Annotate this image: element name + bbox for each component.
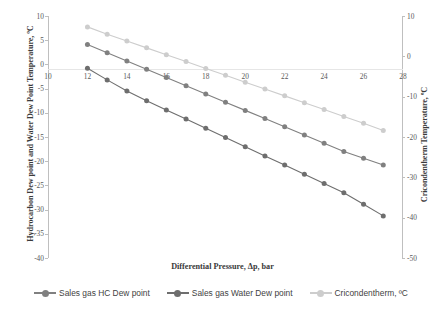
series-marker — [184, 83, 189, 88]
series-marker — [341, 149, 346, 154]
y-axis-left-tick-label: 5 — [20, 36, 44, 45]
y-axis-left-tick-label: -10 — [20, 108, 44, 117]
series-marker — [262, 153, 267, 158]
series-line — [87, 68, 383, 216]
y-axis-left-tick — [45, 258, 48, 259]
series-marker — [302, 100, 307, 105]
legend-marker-icon — [310, 289, 332, 297]
series-marker — [381, 213, 386, 218]
y-axis-left-tick-label: -5 — [20, 84, 44, 93]
series-marker — [322, 107, 327, 112]
series-marker — [184, 117, 189, 122]
y-axis-left-tick-label: -15 — [20, 133, 44, 142]
series-marker — [341, 114, 346, 119]
series-marker — [361, 202, 366, 207]
series-marker — [105, 50, 110, 55]
series-marker — [105, 77, 110, 82]
legend-label: Cricondentherm, ºC — [335, 288, 408, 298]
y-axis-left-tick-label: -30 — [20, 205, 44, 214]
series-marker — [124, 39, 129, 44]
y-axis-left-tick-label: -25 — [20, 181, 44, 190]
series-marker — [144, 45, 149, 50]
series-marker — [302, 172, 307, 177]
series-marker — [262, 87, 267, 92]
series-marker — [203, 66, 208, 71]
series-marker — [282, 93, 287, 98]
y-axis-right-tick-label: -50 — [407, 254, 433, 263]
series-marker — [341, 190, 346, 195]
legend-label: Sales gas HC Dew point — [59, 288, 150, 298]
legend-marker-icon — [167, 289, 189, 297]
series-marker — [105, 32, 110, 37]
y-axis-right-tick-label: 10 — [407, 12, 433, 21]
legend-item[interactable]: Sales gas Water Dew point — [167, 288, 293, 298]
y-axis-right-tick — [402, 258, 405, 259]
series-marker — [184, 59, 189, 64]
series-marker — [85, 24, 90, 29]
series-marker — [144, 98, 149, 103]
legend-item[interactable]: Sales gas HC Dew point — [34, 288, 150, 298]
series-marker — [302, 133, 307, 138]
series-marker — [223, 100, 228, 105]
series-layer — [48, 16, 403, 258]
legend-label: Sales gas Water Dew point — [192, 288, 293, 298]
legend-item[interactable]: Cricondentherm, ºC — [310, 288, 408, 298]
series-marker — [124, 59, 129, 64]
series-marker — [124, 89, 129, 94]
series-marker — [361, 156, 366, 161]
series-marker — [243, 144, 248, 149]
series-marker — [85, 42, 90, 47]
y-axis-right-tick-label: -10 — [407, 92, 433, 101]
y-axis-left-tick-label: -35 — [20, 229, 44, 238]
y-axis-right-tick-label: -40 — [407, 213, 433, 222]
series-marker — [243, 108, 248, 113]
series-marker — [381, 163, 386, 168]
y-axis-left-tick-label: -20 — [20, 157, 44, 166]
series-marker — [85, 66, 90, 71]
x-axis-title: Differential Pressure, Δp, bar — [110, 262, 335, 271]
series-marker — [203, 91, 208, 96]
series-marker — [381, 128, 386, 133]
series-marker — [164, 107, 169, 112]
series-marker — [282, 163, 287, 168]
series-marker — [164, 75, 169, 80]
series-marker — [223, 135, 228, 140]
y-axis-right-tick-label: 0 — [407, 52, 433, 61]
series-line — [87, 27, 383, 131]
series-marker — [282, 124, 287, 129]
series-marker — [203, 126, 208, 131]
series-line — [87, 45, 383, 166]
y-axis-right-tick-label: -30 — [407, 173, 433, 182]
series-marker — [243, 80, 248, 85]
chart-legend: Sales gas HC Dew pointSales gas Water De… — [0, 288, 442, 298]
series-marker — [361, 121, 366, 126]
series-marker — [223, 73, 228, 78]
series-marker — [144, 67, 149, 72]
y-axis-left-tick-label: 0 — [20, 60, 44, 69]
y-axis-left-tick-label: 10 — [20, 12, 44, 21]
series-marker — [322, 141, 327, 146]
legend-marker-icon — [34, 289, 56, 297]
plot-area: 1050-5-10-15-20-25-30-35-40 100-10-20-30… — [48, 16, 403, 258]
y-axis-left-tick-label: -40 — [20, 254, 44, 263]
series-marker — [322, 181, 327, 186]
series-marker — [262, 116, 267, 121]
y-axis-right-tick-label: -20 — [407, 133, 433, 142]
y-axis-right-title: Cricondentherm Temperature, ºC — [420, 52, 429, 237]
series-marker — [164, 52, 169, 57]
chart-root: Hydrocarbon Dew point and Water Dew Poin… — [0, 0, 442, 318]
